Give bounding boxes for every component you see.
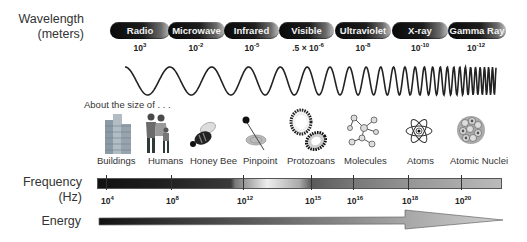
atom-icon [404,116,434,146]
wavelength-gamma: 10-12 [446,42,506,53]
frequency-label-1e20: 1020 [455,195,471,206]
molecule-icon [346,112,382,150]
bee-icon [187,120,221,150]
band-gamma: Gamma Ray [448,22,506,39]
band-label: Ultraviolet [340,25,386,36]
frequency-tick [408,175,409,190]
wavelength-radio: 103 [110,42,170,53]
frequency-label-1e18: 1018 [402,195,418,206]
wave-graphic [0,55,527,107]
wavelength-ultraviolet: 10-8 [333,42,393,53]
wavelength-label-line2: (meters) [0,27,84,42]
frequency-tick [461,175,462,190]
protozoan-icon [287,108,329,154]
frequency-tick [106,175,107,190]
band-label: Gamma Ray [450,25,505,36]
band-label: Radio [127,25,153,36]
energy-arrow [95,209,515,235]
band-label: Visible [291,25,321,36]
size-label-atoms: Atoms [407,155,434,166]
size-label-molecules: Molecules [344,155,387,166]
frequency-tick [171,175,172,190]
size-label-pinpoint: Pinpoint [243,155,277,166]
pin-icon [240,112,268,154]
size-label-humans: Humans [148,155,183,166]
size-label-buildings: Buildings [97,155,136,166]
band-label: Infrared [234,25,269,36]
energy-label: Energy [0,214,81,229]
building-icon [101,112,135,154]
size-of-label: About the size of . . . [84,99,171,110]
frequency-label-line2: (Hz) [0,190,82,205]
frequency-scale-bar [97,178,502,189]
band-visible: Visible [279,22,334,39]
wavelength-visible: .5 × 10-6 [278,42,338,53]
humans-icon [141,112,173,154]
wavelength-label-line1: Wavelength [0,12,84,27]
wavelength-infrared: 10-5 [222,42,282,53]
frequency-tick [311,175,312,190]
frequency-label-1e8: 108 [166,195,179,206]
band-label: X-ray [408,25,432,36]
band-ultraviolet: Ultraviolet [335,22,391,39]
frequency-tick [243,175,244,190]
band-label: Microwave [172,25,221,36]
size-label-honey-bee: Honey Bee [190,155,237,166]
frequency-label-line1: Frequency [0,175,82,190]
frequency-label-1e12: 1012 [237,195,253,206]
nucleus-icon [455,114,487,146]
band-xray: X-ray [392,22,448,39]
band-microwave: Microwave [168,22,225,39]
wavelength-label: Wavelength (meters) [0,12,84,42]
size-label-atomic-nuclei: Atomic Nuclei [450,155,508,166]
frequency-label-1e16: 1016 [347,195,363,206]
size-label-protozoans: Protozoans [287,155,335,166]
frequency-label-1e15: 1015 [305,195,321,206]
band-infrared: Infrared [224,22,279,39]
band-radio: Radio [110,22,170,39]
frequency-tick [353,175,354,190]
frequency-label: Frequency (Hz) [0,175,82,205]
frequency-label-1e4: 104 [101,195,114,206]
wavelength-microwave: 10-2 [166,42,226,53]
wavelength-xray: 10-10 [390,42,450,53]
